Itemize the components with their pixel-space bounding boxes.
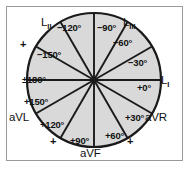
- degree-label-pm_180: ±180°: [22, 75, 46, 85]
- lead-label-main: aVF: [80, 147, 101, 159]
- lead-label-L2: LII: [41, 17, 52, 31]
- lead-label-L3: LIII: [123, 17, 136, 31]
- lead-label-subscript: I: [167, 80, 169, 89]
- plus-lower-left: +: [50, 136, 56, 147]
- lead-label-subscript: III: [129, 22, 136, 31]
- degree-label-plus_0: +0°: [137, 83, 151, 93]
- center-point: [91, 77, 96, 82]
- lead-label-aVF: aVF: [80, 148, 101, 160]
- degree-label-minus_90: −90°: [97, 23, 116, 33]
- lead-label-L1: LI: [161, 75, 169, 89]
- degree-label-minus_120: −120°: [57, 23, 81, 33]
- lead-label-aVL: aVL: [9, 112, 29, 124]
- degree-label-minus_60: −60°: [113, 38, 132, 48]
- degree-label-minus_30: −30°: [128, 58, 147, 68]
- lead-label-aVR: aVR: [145, 112, 167, 124]
- hexaxial-reference-figure: −120°−90°−60°−30°+0°+30°+60°+90°+120°+15…: [0, 0, 191, 169]
- plus-upper-left: +: [20, 39, 26, 50]
- degree-label-minus_150: −150°: [37, 50, 61, 60]
- degree-label-plus_150: +150°: [24, 97, 48, 107]
- lead-label-main: aVL: [9, 111, 29, 123]
- degree-label-plus_30: +30°: [125, 113, 144, 123]
- lead-label-main: aVR: [145, 111, 167, 123]
- degree-label-plus_60: +60°: [105, 131, 124, 141]
- lead-label-subscript: II: [47, 22, 51, 31]
- plus-lower-right: +: [127, 136, 133, 147]
- degree-label-plus_120: +120°: [40, 120, 64, 130]
- degree-label-plus_90: +90°: [70, 136, 89, 146]
